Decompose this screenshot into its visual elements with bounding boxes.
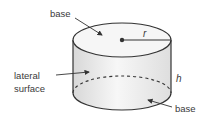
cylinder-diagram: r h base lateral surface base xyxy=(0,0,213,122)
lateral-label-line1: lateral xyxy=(14,70,40,81)
bottom-base-label: base xyxy=(175,103,196,114)
top-base-label: base xyxy=(50,8,71,19)
height-label: h xyxy=(176,73,182,84)
lateral-label-line2: surface xyxy=(14,83,45,94)
